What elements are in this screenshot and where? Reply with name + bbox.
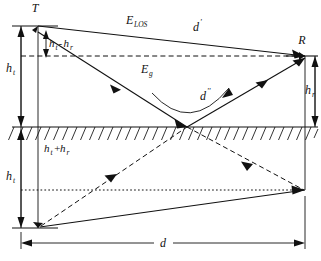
los-ray [38,26,305,56]
reflected-ray-arrowhead [256,80,269,89]
los-label-main: E [125,13,134,27]
receiver-label: R [297,33,306,47]
transmitter-marker [32,26,38,33]
ht-upper-label-group: h t [6,61,16,77]
incident-ray-arrowhead [110,85,121,94]
ht-plus-hr-label-main-1: h [44,142,50,154]
image-rays [40,127,305,227]
hr-arrow-top [312,56,319,67]
dimension-ht-lower [18,129,25,228]
ht-upper-label-subscript: t [13,68,16,77]
ht-lower-label-group: h t [6,169,16,185]
ht-plus-hr-label-group: h t + h r [44,142,70,157]
los-label-subscript: LOS [133,20,148,29]
ht-lower-label-subscript: t [13,176,16,185]
horizontal-reference-lines [21,56,303,190]
ht-minus-hr-label-sub-2: r [70,43,73,52]
ground-hatching [9,127,319,140]
propagation-diagram-figure: T R E LOS d ' E g d '' h t h t h r h t -… [0,0,321,261]
reflected-distance-label-main: d [200,89,207,103]
d-label: d [160,236,167,250]
ht-upper-arrow-bottom [18,116,25,127]
d-arrow-left [21,240,32,247]
ground-ray-label-group: E g [140,62,153,78]
ht-minus-hr-label-operator: - [59,37,63,49]
ht-plus-hr-label-main-2: h [60,142,66,154]
line-of-sight-path [38,26,305,59]
hr-label-group: h r [305,83,315,99]
ht-minus-hr-arrow-bottom [43,49,49,58]
image-receiver-ray-arrowhead [241,162,253,172]
reflected-distance-label-prime: '' [207,87,211,96]
los-distance-label-group: d ' [193,18,202,34]
d-arrow-right [294,240,305,247]
image-transmitter-ray-arrowhead [105,174,118,183]
ground-reflected-path [38,32,305,129]
ht-minus-hr-label-group: h t - h r [49,37,73,52]
los-label-group: E LOS [125,13,148,29]
transmitter-label: T [32,1,40,15]
ht-minus-hr-label-main-1: h [49,37,55,49]
ht-lower-arrow-bottom [18,217,25,228]
ground-plane [9,127,319,140]
diagram-canvas: T R E LOS d ' E g d '' h t h t h r h t -… [0,0,321,261]
image-receiver-ray [187,127,304,190]
ground-ray-label-main: E [140,62,149,76]
image-direct-path [40,190,305,227]
reflected-ray-receiver-arrowhead [293,58,306,67]
ht-upper-arrow-top [18,26,25,37]
hr-label-main: h [305,83,311,97]
dimension-ht-upper [18,26,25,127]
hr-label-subscript: r [312,90,315,99]
ht-upper-label-main: h [6,61,12,75]
ht-lower-label-main: h [6,169,12,183]
los-distance-label-prime: ' [200,18,202,27]
ht-lower-arrow-top [18,129,25,140]
los-distance-label-main: d [193,20,200,34]
ht-minus-hr-label-main-2: h [64,37,70,49]
reflected-distance-label-group: d '' [200,87,211,103]
ht-plus-hr-label-sub-2: r [67,148,70,157]
ground-ray-label-subscript: g [149,69,153,78]
hr-arrow-bottom [312,116,319,127]
